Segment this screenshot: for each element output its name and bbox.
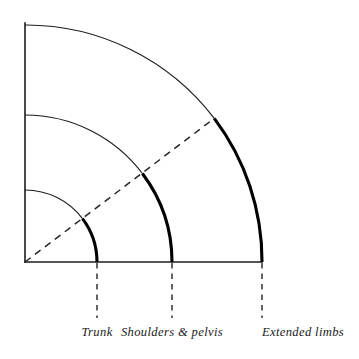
- outer-arc-thin: [25, 25, 214, 118]
- diagonal-radius-dashed-line: [25, 118, 214, 262]
- inner-arc-thin: [25, 190, 83, 219]
- middle-arc-thin: [25, 115, 142, 174]
- label-extended-limbs: Extended limbs: [262, 326, 344, 339]
- inner-arc-bold-segment: [83, 219, 98, 262]
- middle-arc-bold-segment: [142, 174, 172, 262]
- outer-arc-bold-segment: [214, 118, 262, 262]
- label-shoulders-pelvis: Shoulders & pelvis: [121, 326, 223, 339]
- figure-root: Trunk Shoulders & pelvis Extended limbs: [0, 0, 359, 359]
- reach-diagram-svg: [0, 0, 359, 359]
- label-trunk: Trunk: [81, 326, 112, 339]
